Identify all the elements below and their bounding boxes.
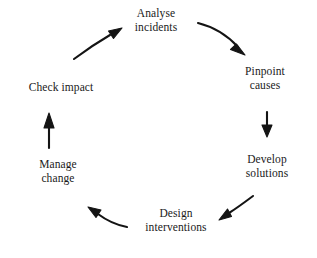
node-design-interventions-line1: Design <box>145 207 206 221</box>
node-manage-change-line1: Manage <box>39 158 77 172</box>
node-manage-change[interactable]: Manage change <box>39 158 77 185</box>
node-analyse-incidents[interactable]: Analyse incidents <box>135 7 177 34</box>
node-design-interventions-line2: interventions <box>145 221 206 235</box>
node-pinpoint-causes-line2: causes <box>245 79 285 93</box>
node-design-interventions[interactable]: Design interventions <box>145 207 206 234</box>
node-check-impact[interactable]: Check impact <box>29 81 94 95</box>
arrow-analyse-to-pinpoint <box>198 23 245 55</box>
arrow-manage-to-check <box>44 113 54 148</box>
node-manage-change-line2: change <box>39 172 77 186</box>
node-analyse-incidents-line1: Analyse <box>135 7 177 21</box>
node-analyse-incidents-line2: incidents <box>135 21 177 35</box>
node-develop-solutions-line2: solutions <box>246 167 288 181</box>
arrow-design-to-manage <box>88 207 127 227</box>
node-pinpoint-causes[interactable]: Pinpoint causes <box>245 65 285 92</box>
node-check-impact-line1: Check impact <box>29 81 94 95</box>
arrow-pinpoint-to-develop <box>262 112 272 137</box>
node-develop-solutions[interactable]: Develop solutions <box>246 153 288 180</box>
arrow-develop-to-design <box>219 196 253 220</box>
cycle-diagram: Analyse incidents Pinpoint causes Develo… <box>0 0 317 258</box>
node-pinpoint-causes-line1: Pinpoint <box>245 65 285 79</box>
node-develop-solutions-line1: Develop <box>246 153 288 167</box>
arrow-check-to-analyse <box>74 28 122 59</box>
